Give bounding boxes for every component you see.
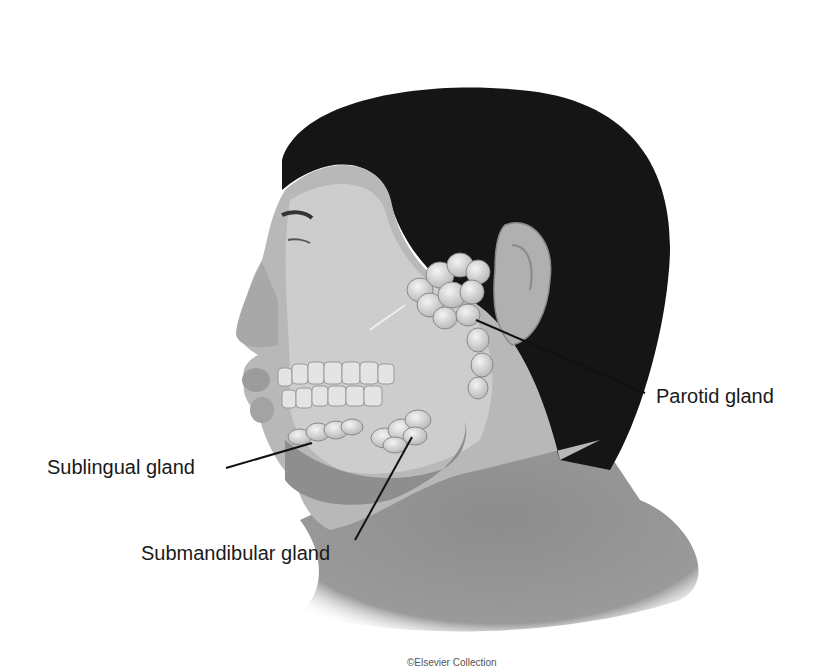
copyright-caption: ©Elsevier Collection <box>407 657 497 667</box>
salivary-gland-diagram: Sublingual gland Submandibular gland Par… <box>0 0 836 667</box>
label-parotid-gland: Parotid gland <box>656 386 774 406</box>
head-illustration <box>0 0 836 667</box>
label-sublingual-gland: Sublingual gland <box>47 457 195 477</box>
label-submandibular-gland: Submandibular gland <box>141 543 330 563</box>
